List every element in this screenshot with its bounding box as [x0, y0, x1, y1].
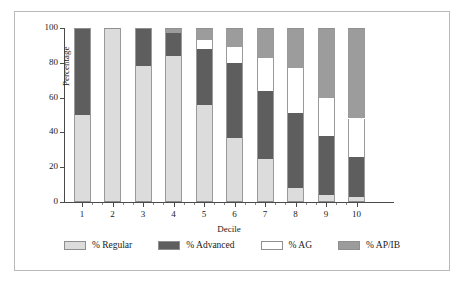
legend-swatch-apib-icon [338, 241, 360, 250]
bar-decile-2[interactable] [104, 28, 121, 202]
x-tick-10 [357, 203, 358, 207]
bar-segment-advanced-decile-8 [287, 113, 304, 188]
y-tick-80 [60, 63, 64, 64]
x-tick-minor [316, 203, 317, 205]
x-tick-minor [92, 203, 93, 205]
y-axis-title: Percentage [61, 47, 71, 86]
x-tick-6 [235, 203, 236, 207]
bar-segment-apib-decile-6 [226, 28, 243, 47]
x-tick-minor [163, 203, 164, 205]
chart-legend: % Regular% Advanced% AG% AP/IB [15, 240, 449, 250]
x-tick-4 [174, 203, 175, 207]
bar-segment-advanced-decile-3 [135, 28, 152, 66]
x-tick-5 [204, 203, 205, 207]
x-tick-label-10: 10 [344, 209, 370, 219]
bar-segment-regular-decile-4 [165, 56, 182, 202]
legend-label-advanced: % Advanced [186, 240, 234, 250]
bar-segment-regular-decile-10 [348, 197, 365, 202]
bar-segment-regular-decile-2 [104, 28, 121, 202]
bar-segment-apib-decile-7 [257, 28, 274, 58]
x-tick-minor [123, 203, 124, 205]
figure-frame: Percentage Decile 020406080100 123456789… [14, 11, 450, 271]
x-tick-7 [265, 203, 266, 207]
bar-segment-ag-decile-5 [196, 40, 213, 49]
bar-segment-apib-decile-8 [287, 28, 304, 68]
x-tick-minor [184, 203, 185, 205]
y-tick-label-80: 80 [30, 58, 58, 67]
bar-segment-advanced-decile-7 [257, 91, 274, 159]
bar-decile-5[interactable] [196, 28, 213, 202]
legend-label-regular: % Regular [92, 240, 132, 250]
bar-segment-apib-decile-5 [196, 28, 213, 40]
legend-label-apib: % AP/IB [366, 240, 400, 250]
x-tick-minor [214, 203, 215, 205]
x-tick-minor [275, 203, 276, 205]
bar-decile-4[interactable] [165, 28, 182, 202]
legend-label-ag: % AG [289, 240, 313, 250]
x-tick-minor [102, 203, 103, 205]
x-tick-9 [326, 203, 327, 207]
bar-decile-8[interactable] [287, 28, 304, 202]
bar-decile-6[interactable] [226, 28, 243, 202]
x-tick-label-6: 6 [222, 209, 248, 219]
y-tick-label-0: 0 [30, 197, 58, 206]
bar-segment-regular-decile-5 [196, 105, 213, 202]
y-tick-label-20: 20 [30, 162, 58, 171]
bar-decile-9[interactable] [318, 28, 335, 202]
x-tick-minor [285, 203, 286, 205]
y-tick-label-60: 60 [30, 93, 58, 102]
bar-segment-ag-decile-6 [226, 47, 243, 63]
y-tick-label-100: 100 [30, 23, 58, 32]
x-tick-label-9: 9 [313, 209, 339, 219]
x-tick-label-1: 1 [69, 209, 95, 219]
legend-item-ag[interactable]: % AG [261, 240, 313, 250]
x-tick-label-4: 4 [161, 209, 187, 219]
bar-decile-1[interactable] [74, 28, 91, 202]
x-axis-title: Decile [64, 224, 394, 234]
legend-swatch-regular-icon [64, 241, 86, 250]
legend-item-advanced[interactable]: % Advanced [158, 240, 234, 250]
bar-decile-10[interactable] [348, 28, 365, 202]
bar-segment-apib-decile-10 [348, 28, 365, 118]
y-tick-40 [60, 132, 64, 133]
legend-item-apib[interactable]: % AP/IB [338, 240, 400, 250]
bar-segment-regular-decile-6 [226, 138, 243, 202]
bar-decile-3[interactable] [135, 28, 152, 202]
bar-segment-ag-decile-7 [257, 58, 274, 91]
x-tick-3 [143, 203, 144, 207]
x-tick-label-8: 8 [283, 209, 309, 219]
bar-segment-advanced-decile-5 [196, 49, 213, 105]
x-tick-minor [245, 203, 246, 205]
x-tick-label-7: 7 [252, 209, 278, 219]
x-tick-minor [255, 203, 256, 205]
x-tick-minor [153, 203, 154, 205]
bar-segment-regular-decile-7 [257, 159, 274, 203]
bar-segment-regular-decile-9 [318, 195, 335, 202]
x-axis-line [64, 202, 394, 203]
x-tick-label-5: 5 [191, 209, 217, 219]
bar-segment-ag-decile-8 [287, 68, 304, 113]
plot-area: Percentage Decile 020406080100 123456789… [64, 28, 394, 202]
bar-segment-advanced-decile-9 [318, 136, 335, 195]
y-tick-100 [60, 28, 64, 29]
x-tick-minor [346, 203, 347, 205]
bar-segment-regular-decile-3 [135, 66, 152, 202]
x-tick-minor [336, 203, 337, 205]
bar-segment-advanced-decile-4 [165, 33, 182, 56]
bar-segment-ag-decile-9 [318, 98, 335, 136]
legend-item-regular[interactable]: % Regular [64, 240, 132, 250]
x-tick-minor [133, 203, 134, 205]
x-tick-label-3: 3 [130, 209, 156, 219]
bar-segment-regular-decile-1 [74, 115, 91, 202]
x-tick-1 [82, 203, 83, 207]
x-tick-label-2: 2 [100, 209, 126, 219]
bar-decile-7[interactable] [257, 28, 274, 202]
x-tick-minor [224, 203, 225, 205]
x-tick-2 [113, 203, 114, 207]
x-tick-minor [306, 203, 307, 205]
bar-segment-ag-decile-10 [348, 119, 365, 157]
bar-segment-regular-decile-8 [287, 188, 304, 202]
y-tick-0 [60, 202, 64, 203]
y-tick-20 [60, 167, 64, 168]
x-tick-minor [194, 203, 195, 205]
